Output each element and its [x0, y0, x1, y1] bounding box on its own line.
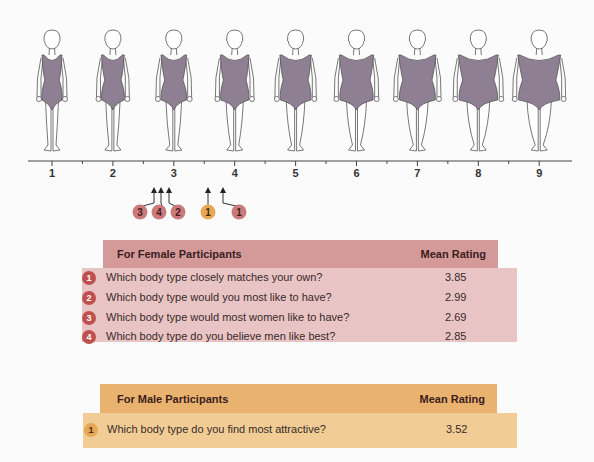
scale-axis: [0, 0, 594, 230]
axis-tick-label: 6: [353, 167, 359, 179]
female-header-title: For Female Participants: [117, 248, 242, 260]
female-table-body: 1 Which body type closely matches your o…: [82, 268, 517, 342]
table-row: 1 Which body type do you find most attra…: [83, 420, 517, 440]
female-col-header: Mean Rating: [421, 248, 486, 260]
question-text: Which body type do you find most attract…: [107, 423, 326, 435]
row-number-badge: 3: [82, 311, 96, 325]
row-number-badge: 4: [82, 330, 96, 344]
body-image-figure: 123456789 34211 For Female Participants …: [0, 0, 594, 462]
question-text: Which body type closely matches your own…: [106, 271, 322, 283]
mean-rating-value: 2.85: [445, 330, 466, 342]
female-marker-badge: 2: [171, 205, 186, 220]
question-text: Which body type do you believe men like …: [106, 330, 335, 342]
row-number-badge: 2: [82, 291, 96, 305]
axis-tick-label: 3: [171, 167, 177, 179]
female-marker-badge: 1: [232, 205, 247, 220]
row-number-badge: 1: [84, 423, 98, 437]
question-text: Which body type would most women like to…: [106, 311, 349, 323]
axis-tick-label: 7: [414, 167, 420, 179]
table-row: 1 Which body type closely matches your o…: [82, 268, 517, 288]
male-header-title: For Male Participants: [117, 393, 228, 405]
female-table-header: For Female Participants Mean Rating: [103, 240, 498, 268]
mean-rating-value: 2.99: [445, 291, 466, 303]
table-row: 4 Which body type do you believe men lik…: [82, 327, 517, 347]
male-marker-badge: 1: [201, 205, 216, 220]
axis-tick-label: 4: [232, 167, 238, 179]
axis-tick-label: 2: [110, 167, 116, 179]
row-number-badge: 1: [82, 271, 96, 285]
axis-tick-label: 5: [293, 167, 299, 179]
axis-tick-label: 1: [49, 167, 55, 179]
male-table-header: For Male Participants Mean Rating: [100, 384, 497, 413]
axis-tick-label: 9: [536, 167, 542, 179]
axis-tick-label: 8: [475, 167, 481, 179]
female-marker-badge: 4: [152, 205, 167, 220]
question-text: Which body type would you most like to h…: [106, 291, 332, 303]
table-row: 3 Which body type would most women like …: [82, 308, 517, 328]
mean-rating-value: 2.69: [445, 311, 466, 323]
female-marker-badge: 3: [133, 205, 148, 220]
mean-rating-value: 3.85: [445, 271, 466, 283]
table-row: 2 Which body type would you most like to…: [82, 288, 517, 308]
mean-rating-value: 3.52: [446, 423, 467, 435]
male-table-body: 1 Which body type do you find most attra…: [83, 413, 517, 448]
male-col-header: Mean Rating: [420, 393, 485, 405]
